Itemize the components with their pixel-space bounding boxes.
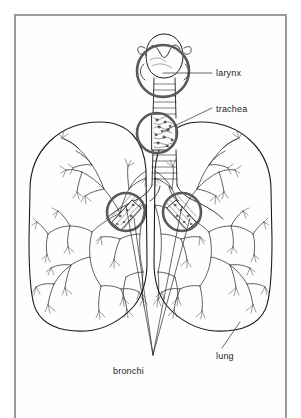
label-bronchi: bronchi bbox=[113, 367, 144, 376]
left-lung-outline bbox=[29, 122, 147, 331]
label-trachea: trachea bbox=[216, 105, 247, 114]
leader-bronchi-right-a bbox=[153, 206, 182, 355]
leader-lung bbox=[222, 322, 240, 348]
leader-bronchi-left-b bbox=[134, 218, 153, 355]
label-larynx: larynx bbox=[216, 69, 241, 78]
label-lung: lung bbox=[216, 352, 234, 361]
left-bronchial-tree bbox=[32, 131, 148, 319]
leader-bronchi-left-a bbox=[126, 206, 153, 355]
